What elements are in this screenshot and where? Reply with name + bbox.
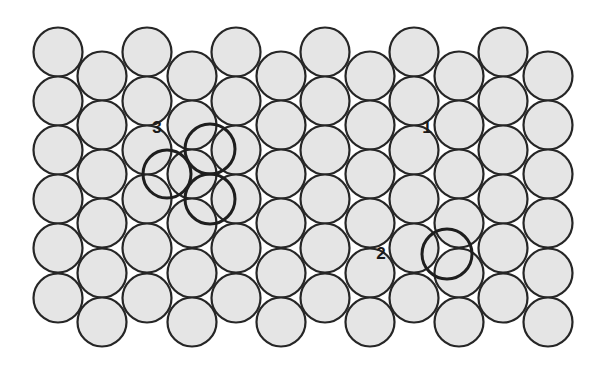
- packed-circle: [78, 101, 127, 150]
- packed-circle: [346, 249, 395, 298]
- packed-circle: [168, 52, 217, 101]
- packed-circle: [78, 298, 127, 347]
- packed-circle: [212, 224, 261, 273]
- packed-circle: [524, 52, 573, 101]
- packed-circle: [479, 175, 528, 224]
- packed-circle: [257, 101, 306, 150]
- packed-circle: [123, 224, 172, 273]
- packed-circle: [301, 224, 350, 273]
- packed-circle: [78, 150, 127, 199]
- packed-circle: [257, 249, 306, 298]
- packed-circles-layer: [34, 28, 573, 347]
- label-site-2: 2: [376, 244, 385, 263]
- packed-circle: [34, 274, 83, 323]
- packed-circle: [435, 52, 484, 101]
- packed-circle: [435, 199, 484, 248]
- packed-circle: [435, 101, 484, 150]
- packed-circle: [301, 77, 350, 126]
- packed-circle: [479, 77, 528, 126]
- packed-circle: [524, 249, 573, 298]
- packed-circle: [435, 298, 484, 347]
- packed-circle: [390, 28, 439, 77]
- packed-circle: [78, 52, 127, 101]
- packed-circle: [34, 224, 83, 273]
- packed-circle: [301, 274, 350, 323]
- label-site-1: 1: [422, 118, 431, 137]
- packed-circle: [346, 150, 395, 199]
- packed-circle: [346, 52, 395, 101]
- packed-circle: [34, 175, 83, 224]
- packed-circle: [123, 28, 172, 77]
- packed-circle: [257, 150, 306, 199]
- packed-circle: [479, 126, 528, 175]
- packed-circle: [524, 199, 573, 248]
- packed-circle: [435, 150, 484, 199]
- packed-circle: [390, 274, 439, 323]
- packed-circle: [301, 28, 350, 77]
- packed-circle: [257, 298, 306, 347]
- packed-circle: [390, 224, 439, 273]
- packed-circle: [212, 28, 261, 77]
- packed-circle: [524, 101, 573, 150]
- packed-circle: [524, 298, 573, 347]
- packed-circle: [123, 77, 172, 126]
- circle-packing-diagram: 1 2 3: [0, 0, 602, 366]
- label-site-3: 3: [152, 118, 161, 137]
- packed-circle: [479, 274, 528, 323]
- packed-circle: [479, 28, 528, 77]
- packed-circle: [257, 199, 306, 248]
- packed-circle: [346, 298, 395, 347]
- packed-circle: [390, 175, 439, 224]
- packed-circle: [479, 224, 528, 273]
- packed-circle: [257, 52, 306, 101]
- packed-circle: [212, 274, 261, 323]
- packed-circle: [123, 274, 172, 323]
- packed-circle: [435, 249, 484, 298]
- packed-circle: [34, 28, 83, 77]
- packed-circle: [301, 175, 350, 224]
- packed-circle: [346, 199, 395, 248]
- packed-circle: [78, 199, 127, 248]
- packed-circle: [34, 126, 83, 175]
- packed-circle: [168, 249, 217, 298]
- packed-circle: [212, 77, 261, 126]
- packed-circle: [346, 101, 395, 150]
- packed-circle: [168, 298, 217, 347]
- packed-circle: [301, 126, 350, 175]
- packed-circle: [524, 150, 573, 199]
- packed-circle: [34, 77, 83, 126]
- packed-circle: [78, 249, 127, 298]
